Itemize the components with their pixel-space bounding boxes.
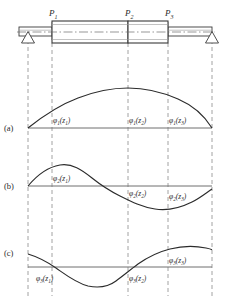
panel-a-annotation-z1: φ1(z1)	[53, 116, 71, 126]
panel-a-annotation-z2: φ1(z2)	[129, 116, 147, 126]
beam-left-stub	[19, 27, 52, 36]
panel-b: (b) φ2(z1) φ2(z2) φ2(z3)	[4, 165, 212, 210]
panel-c-annotation-z2: φ3(z2)	[129, 274, 147, 284]
panel-c-label: (c)	[4, 248, 14, 258]
panel-a: (a) φ1(z1) φ1(z2) φ1(z3)	[4, 88, 212, 133]
load-label-p3: P3	[164, 8, 174, 20]
panel-b-annotation-z1: φ2(z1)	[53, 174, 71, 184]
beam-right-stub-body	[168, 27, 212, 36]
panel-a-annotation-z3: φ1(z3)	[169, 116, 187, 126]
station-dashed-lines	[28, 22, 212, 296]
load-label-p2: P2	[124, 8, 134, 20]
load-labels: P1 P2 P3	[48, 8, 174, 20]
beam-right-stub	[168, 27, 212, 36]
panel-b-annotation-z2: φ2(z2)	[129, 189, 147, 199]
panel-b-annotation-z3: φ2(z3)	[169, 192, 187, 202]
panel-c-annotation-z1: φ3(z1)	[36, 274, 54, 284]
load-label-p1: P1	[48, 8, 58, 20]
figure-root: P1 P2 P3 (a) φ1(z1) φ1(z2) φ1(z3)	[0, 0, 228, 300]
beam-modeshape-figure: P1 P2 P3 (a) φ1(z1) φ1(z2) φ1(z3)	[0, 0, 228, 300]
panel-c: (c) φ3(z1) φ3(z2) φ3(z3)	[4, 247, 212, 287]
panel-b-mode-curve	[28, 165, 212, 210]
beam-assembly	[17, 21, 219, 43]
panel-b-label: (b)	[4, 181, 14, 191]
panel-a-label: (a)	[4, 123, 14, 133]
beam-left-stub-body	[19, 27, 52, 36]
panel-c-annotation-z3: φ3(z3)	[169, 256, 187, 266]
